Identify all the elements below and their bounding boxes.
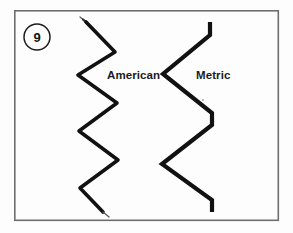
label-american: American xyxy=(107,69,160,81)
scan-speck-icon xyxy=(202,99,204,101)
badge-number: 9 xyxy=(33,30,40,45)
figure-frame xyxy=(15,11,279,221)
label-metric: Metric xyxy=(196,69,231,81)
comparison-diagram: 9 American Metric xyxy=(0,0,293,233)
figure-container: 9 American Metric xyxy=(0,0,293,233)
